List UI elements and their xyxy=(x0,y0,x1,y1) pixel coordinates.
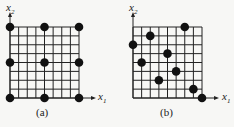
design-point xyxy=(6,58,15,67)
design-point xyxy=(40,58,49,67)
panel-b-y-label: x2 xyxy=(129,1,137,16)
design-point xyxy=(6,23,15,32)
design-point xyxy=(155,76,164,85)
design-point xyxy=(6,94,15,103)
design-point xyxy=(163,49,172,58)
panel-b-x-label: x1 xyxy=(222,90,230,105)
design-point xyxy=(137,58,146,67)
design-point xyxy=(40,94,49,103)
design-point xyxy=(129,40,138,49)
panel-a-caption: (a) xyxy=(36,106,48,118)
design-point xyxy=(172,67,181,76)
design-point xyxy=(198,94,207,103)
design-point xyxy=(189,85,198,94)
design-point xyxy=(40,23,49,32)
design-point xyxy=(180,23,189,32)
design-point xyxy=(75,94,84,103)
panel-b-caption: (b) xyxy=(160,106,173,118)
design-point xyxy=(75,23,84,32)
panel-a-x-label: x1 xyxy=(98,90,106,105)
panel-a-y-label: x2 xyxy=(6,1,14,16)
design-point xyxy=(146,32,155,41)
design-point xyxy=(75,58,84,67)
